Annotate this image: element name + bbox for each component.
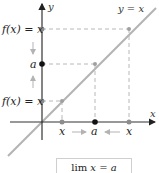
y-label-fx-top: f(x) = x (1, 23, 44, 36)
x-label-left: x (59, 125, 66, 138)
y-label-a: a (30, 58, 37, 71)
point-x-right (127, 120, 132, 125)
point-x-left (60, 120, 65, 125)
point-line-bottom (60, 99, 64, 103)
point-line-top (127, 27, 131, 31)
point-line-a (93, 62, 97, 66)
point-a-x (92, 119, 98, 125)
x-label-right: x (126, 125, 133, 138)
lim-expression: x = a (90, 162, 116, 173)
y-axis-label: y (47, 1, 54, 12)
point-a-y (39, 61, 45, 67)
lim-text: lim (71, 162, 87, 173)
line-label: y = x (117, 3, 144, 14)
x-axis-label: x (150, 108, 156, 119)
x-label-a: a (91, 125, 98, 138)
limit-diagram: y x y = x f(x) = x a f(x) = x x a x (0, 0, 159, 173)
limit-formula-box: lim x = a (56, 158, 132, 173)
y-label-fx-bottom: f(x) = x (1, 95, 44, 108)
